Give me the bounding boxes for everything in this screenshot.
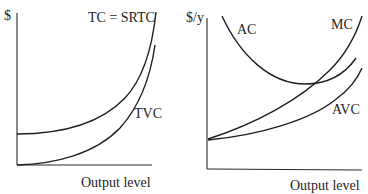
left-x-axis-label: Output level <box>81 175 151 190</box>
ac-label: AC <box>237 22 256 37</box>
left-y-axis-label: $ <box>4 8 11 23</box>
tc-label: TC = SRTC <box>88 10 155 25</box>
tvc-label: TVC <box>134 106 162 121</box>
avc-label: AVC <box>332 102 360 117</box>
right-y-axis-label: $/y <box>186 10 204 25</box>
right-x-axis-label: Output level <box>290 178 360 193</box>
total-cost-panel: $ TC = SRTC TVC Output level <box>4 8 162 190</box>
right-x-axis <box>207 169 362 170</box>
tvc-curve <box>17 45 155 165</box>
average-cost-panel: $/y AC MC AVC Output level <box>186 10 362 193</box>
cost-curves-diagram: $ TC = SRTC TVC Output level $/y AC MC A… <box>0 0 368 194</box>
mc-label: MC <box>331 17 353 32</box>
